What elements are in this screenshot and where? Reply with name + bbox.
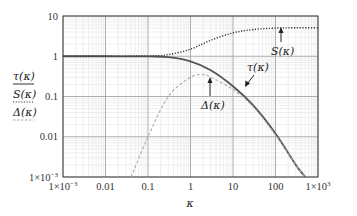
x-tick: 10 <box>228 181 239 192</box>
annotation-S-label: S(κ) <box>271 45 294 58</box>
x-tick: 1×103 <box>305 180 331 192</box>
legend-tau: τ(κ) <box>13 70 35 83</box>
log-log-chart: 10 1 0.1 0.01 1×10−3 1×10−3 0.01 0.1 1 1… <box>0 0 357 216</box>
annotation-tau: τ(κ) <box>245 61 269 87</box>
x-tick: 1 <box>188 181 193 192</box>
y-tick: 10 <box>48 11 59 22</box>
x-tick: 1×10−3 <box>48 180 78 192</box>
annotation-tau-label: τ(κ) <box>247 61 269 74</box>
series-line <box>131 74 305 177</box>
legend-delta: Δ(κ) <box>12 106 37 119</box>
y-tick: 0.1 <box>45 91 58 102</box>
y-tick: 0.01 <box>40 131 58 142</box>
grid <box>63 16 318 177</box>
annotation-S: S(κ) <box>271 27 294 58</box>
x-tick: 100 <box>268 181 284 192</box>
legend-S: S(κ) <box>13 88 36 101</box>
y-tick: 1 <box>53 51 58 62</box>
x-tick: 0.01 <box>96 181 114 192</box>
x-axis-label: κ <box>185 197 194 210</box>
legend: τ(κ) S(κ) Δ(κ) <box>12 70 37 120</box>
annotation-delta-label: Δ(κ) <box>200 99 225 112</box>
x-axis-ticks: 1×10−3 0.01 0.1 1 10 100 1×103 <box>48 180 331 192</box>
x-tick: 0.1 <box>141 181 154 192</box>
